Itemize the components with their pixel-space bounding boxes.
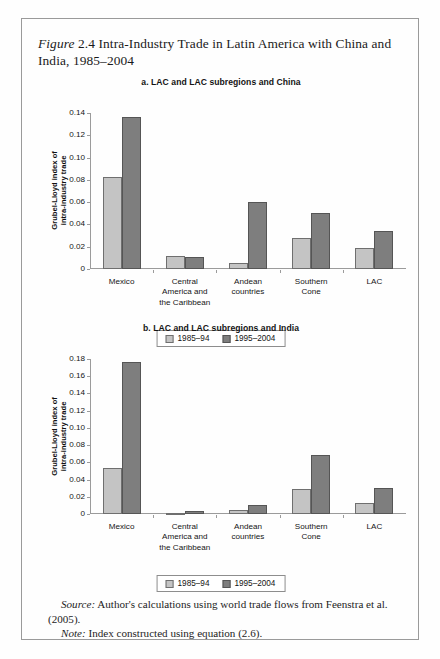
bar — [185, 257, 204, 269]
y-axis-tick-label: 0.10 — [56, 423, 85, 432]
bar — [355, 248, 374, 269]
bar — [355, 503, 374, 514]
figure-number: 2.4 — [78, 36, 95, 51]
x-axis-tick-mark — [280, 270, 281, 273]
y-axis-tick-label: 0.14 — [56, 108, 85, 117]
bar — [166, 513, 185, 515]
legend-item-1985-94: 1985–94 — [166, 579, 210, 588]
y-axis-tick-label: 0.12 — [56, 406, 85, 415]
figure-notes: Source: Author's calculations using worl… — [48, 597, 404, 641]
source-note: Source: Author's calculations using worl… — [48, 597, 404, 626]
bar — [292, 489, 311, 514]
y-axis-tick-mark — [87, 445, 90, 446]
x-axis-tick-mark — [153, 515, 154, 518]
x-axis-category-label: Mexico — [86, 277, 157, 287]
x-axis-tick-mark — [280, 515, 281, 518]
x-axis-category-label: Andeancountries — [212, 277, 283, 298]
y-axis-tick-mark — [87, 497, 90, 498]
y-axis-tick-label: 0.08 — [56, 440, 85, 449]
source-label: Source: — [61, 598, 95, 610]
figure-page: Figure 2.4 Intra-Industry Trade in Latin… — [0, 0, 440, 659]
x-axis-category-label: SouthernCone — [276, 522, 347, 543]
legend-swatch-icon — [166, 580, 174, 588]
chart-legend: 1985–941995–2004 — [157, 575, 286, 592]
panel-title: b. LAC and LAC subregions and India — [22, 323, 420, 333]
y-axis-tick-label: 0.08 — [56, 175, 85, 184]
bar — [292, 238, 311, 269]
y-axis-label: Grubel-Lloyd index ofintra-industry trad… — [50, 102, 69, 278]
y-axis-tick-mark — [87, 247, 90, 248]
bar — [122, 362, 141, 514]
x-axis-tick-mark — [216, 270, 217, 273]
x-axis-category-label: CentralAmerica andthe Caribbean — [149, 277, 220, 308]
x-axis-tick-mark — [216, 515, 217, 518]
source-text: Author's calculations using world trade … — [48, 598, 388, 625]
bar — [248, 202, 267, 269]
note-label: Note: — [61, 627, 86, 639]
bar — [248, 505, 267, 514]
y-axis-tick-mark — [87, 158, 90, 159]
y-axis-tick-mark — [87, 428, 90, 429]
y-axis-tick-mark — [87, 411, 90, 412]
y-axis-tick-label: 0.06 — [56, 197, 85, 206]
y-axis-tick-label: 0.04 — [56, 475, 85, 484]
legend-swatch-icon — [222, 580, 230, 588]
y-axis-tick-mark — [87, 393, 90, 394]
y-axis-tick-label: 0 — [56, 509, 85, 518]
bar — [166, 256, 185, 269]
y-axis-tick-label: 0.16 — [56, 371, 85, 380]
y-axis-tick-label: 0.04 — [56, 219, 85, 228]
chart-panel-b: b. LAC and LAC subregions and IndiaGrube… — [22, 323, 420, 601]
x-axis-category-label: Mexico — [86, 522, 157, 532]
figure-caption: Figure 2.4 Intra-Industry Trade in Latin… — [38, 35, 406, 69]
bar — [311, 455, 330, 514]
y-axis-tick-mark — [87, 376, 90, 377]
panel-title: a. LAC and LAC subregions and China — [22, 77, 420, 87]
figure-label: Figure — [38, 36, 75, 51]
legend-label: 1985–94 — [178, 579, 210, 588]
x-axis-category-label: LAC — [339, 277, 410, 287]
y-axis-tick-mark — [87, 135, 90, 136]
x-axis-category-label: CentralAmerica andthe Caribbean — [149, 522, 220, 553]
chart-panel-a: a. LAC and LAC subregions and ChinaGrube… — [22, 77, 420, 356]
y-axis-tick-mark — [87, 269, 90, 270]
y-axis-tick-mark — [87, 462, 90, 463]
y-axis-tick-label: 0.02 — [56, 492, 85, 501]
x-axis-category-label: LAC — [339, 522, 410, 532]
legend-item-1995-2004: 1995–2004 — [222, 579, 275, 588]
y-axis-tick-mark — [87, 480, 90, 481]
y-axis-tick-label: 0.18 — [56, 354, 85, 363]
y-axis-tick-mark — [87, 202, 90, 203]
x-axis-tick-mark — [343, 515, 344, 518]
note-text: Index constructed using equation (2.6). — [88, 627, 262, 639]
bar — [374, 488, 393, 514]
y-axis-tick-label: 0 — [56, 264, 85, 273]
y-axis-tick-label: 0.12 — [56, 130, 85, 139]
x-axis-category-label: SouthernCone — [276, 277, 347, 298]
figure-frame: Figure 2.4 Intra-Industry Trade in Latin… — [21, 18, 419, 640]
y-axis-tick-mark — [87, 180, 90, 181]
bar — [103, 177, 122, 269]
index-note: Note: Index constructed using equation (… — [48, 626, 404, 641]
bar — [229, 510, 248, 514]
y-axis-tick-mark — [87, 113, 90, 114]
x-axis-category-label: Andeancountries — [212, 522, 283, 543]
x-axis-tick-mark — [343, 270, 344, 273]
y-axis-tick-label: 0.06 — [56, 457, 85, 466]
y-axis-tick-mark — [87, 224, 90, 225]
legend-label: 1995–2004 — [234, 579, 275, 588]
y-axis-tick-mark — [87, 514, 90, 515]
y-axis-tick-label: 0.10 — [56, 153, 85, 162]
bar — [374, 231, 393, 269]
bar — [185, 511, 204, 514]
bar — [229, 263, 248, 269]
bar — [311, 213, 330, 269]
bar — [103, 468, 122, 515]
y-axis-tick-label: 0.02 — [56, 242, 85, 251]
y-axis-tick-mark — [87, 359, 90, 360]
x-axis-tick-mark — [153, 270, 154, 273]
y-axis-tick-label: 0.14 — [56, 388, 85, 397]
bar — [122, 117, 141, 269]
